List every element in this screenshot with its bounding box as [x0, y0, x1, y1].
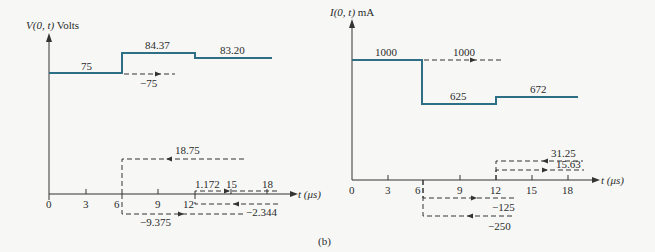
- right-x-axis-title: t (μs): [601, 175, 624, 186]
- label-1000-dashed: 1000: [453, 47, 475, 58]
- arrow-right-icon: [178, 212, 184, 217]
- label-minus-250: −250: [488, 221, 511, 232]
- left-tick-12: 12: [183, 199, 194, 210]
- right-dashed-minus125: [423, 180, 516, 198]
- label-625: 625: [450, 91, 467, 102]
- right-tick-12: 12: [490, 185, 501, 196]
- right-y-label-unit: mA: [358, 6, 375, 18]
- right-x-axis-arrow-icon: [592, 177, 600, 183]
- label-83-20: 83.20: [220, 45, 245, 56]
- left-x-axis-arrow-icon: [290, 191, 298, 197]
- right-tick-15: 15: [526, 185, 537, 196]
- left-tick-18: 18: [262, 179, 273, 190]
- label-18-75: 18.75: [175, 145, 200, 156]
- label-minus-125: −125: [492, 202, 515, 213]
- arrow-left-icon: [166, 157, 172, 162]
- arrow-left-icon: [467, 214, 473, 219]
- left-y-axis-title: V(0, t) Volts: [26, 20, 79, 31]
- arrow-left-icon: [233, 202, 239, 207]
- left-tick-6: 6: [114, 199, 120, 210]
- left-y-label-unit: Volts: [57, 19, 79, 31]
- left-y-label-args: (0, t): [33, 19, 54, 31]
- left-tick-15: 15: [226, 179, 237, 190]
- left-x-axis-title: t (μs): [298, 189, 321, 200]
- arrow-left-icon: [542, 159, 548, 164]
- left-x-ticks: [86, 189, 267, 194]
- arrow-right-icon: [471, 196, 477, 201]
- label-1000-waveform: 1000: [375, 47, 397, 58]
- right-dashed-15-63: [496, 170, 584, 180]
- right-tick-3: 3: [385, 185, 391, 196]
- label-minus-2-344: −2.344: [246, 207, 277, 218]
- left-tick-3: 3: [83, 199, 89, 210]
- arrow-right-icon: [542, 168, 548, 173]
- right-y-label-args: (0, t): [334, 6, 355, 18]
- diagram-canvas: [0, 0, 655, 252]
- label-75: 75: [81, 61, 92, 72]
- figure-label: (b): [318, 236, 331, 247]
- label-672: 672: [530, 84, 547, 95]
- left-y-axis-arrow-icon: [46, 33, 52, 42]
- right-tick-18: 18: [562, 185, 573, 196]
- label-84-37: 84.37: [145, 40, 170, 51]
- left-tick-9: 9: [155, 199, 161, 210]
- label-1-172: 1.172: [195, 179, 220, 190]
- label-minus-75: −75: [140, 78, 157, 89]
- right-y-axis-title: I(0, t) mA: [330, 7, 374, 18]
- right-x-ticks: [388, 175, 568, 180]
- arrow-right-icon: [155, 72, 161, 77]
- left-y-label-symbol: V: [26, 19, 33, 31]
- label-15-63: 15.63: [556, 159, 581, 170]
- label-minus-9-375: −9.375: [140, 217, 171, 228]
- right-tick-9: 9: [457, 185, 463, 196]
- right-tick-0: 0: [349, 185, 355, 196]
- right-y-axis-arrow-icon: [349, 19, 355, 28]
- right-tick-6: 6: [415, 185, 421, 196]
- left-tick-0: 0: [46, 199, 52, 210]
- arrow-right-icon: [470, 58, 476, 63]
